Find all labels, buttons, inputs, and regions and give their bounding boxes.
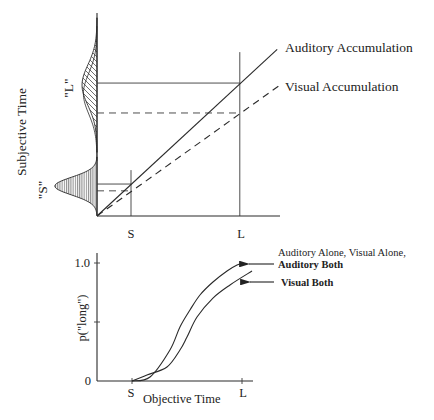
visual-both-curve bbox=[132, 271, 252, 381]
bottom-x-tick-label-s: S bbox=[128, 386, 135, 400]
short-distribution-label: "S" bbox=[35, 181, 50, 200]
subjective-time-label: Subjective Time bbox=[14, 88, 29, 176]
top-x-tick-label-s: S bbox=[128, 227, 135, 241]
auditory-alone-visual-alone-auditory-both-curve bbox=[132, 264, 242, 381]
long-distribution-label: "L" bbox=[61, 78, 76, 97]
short-distribution-curve bbox=[55, 157, 97, 215]
top-x-tick-label-l: L bbox=[237, 227, 245, 241]
figure: Subjective Time "L" "S" S L Auditory Acc… bbox=[0, 0, 434, 420]
top-panel: Subjective Time "L" "S" S L Auditory Acc… bbox=[14, 13, 413, 241]
y-tick-label-0: 0 bbox=[85, 374, 91, 388]
bottom-panel: 1.0 0 p("long") S L Objective Time Audit… bbox=[74, 247, 405, 406]
visual-accumulation-dashed-line bbox=[97, 85, 280, 216]
upper-curve-annotation-line2: Auditory Both bbox=[278, 259, 343, 270]
upper-curve-annotation-line1: Auditory Alone, Visual Alone, bbox=[278, 247, 406, 258]
auditory-accumulation-label: Auditory Accumulation bbox=[285, 40, 413, 55]
bottom-x-tick-label-l: L bbox=[239, 386, 247, 400]
objective-time-label: Objective Time bbox=[143, 392, 221, 406]
lower-curve-annotation: Visual Both bbox=[281, 277, 334, 288]
probability-long-label: p("long") bbox=[75, 294, 89, 341]
y-tick-label-1: 1.0 bbox=[74, 256, 90, 270]
visual-accumulation-label: Visual Accumulation bbox=[285, 79, 399, 94]
auditory-accumulation-line bbox=[97, 49, 277, 216]
